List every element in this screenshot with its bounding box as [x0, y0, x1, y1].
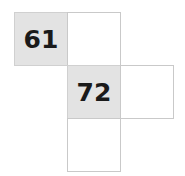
- grid-cell-middle-left[interactable]: 72: [67, 65, 121, 119]
- grid-cell-middle-right[interactable]: [120, 65, 174, 119]
- grid-diagram-canvas: 61 72: [0, 0, 185, 176]
- grid-cell-label: 72: [77, 80, 112, 105]
- grid-cell-bottom[interactable]: [67, 118, 121, 172]
- grid-cell-top-right[interactable]: [67, 12, 121, 66]
- grid-cell-label: 61: [24, 27, 59, 52]
- grid-cell-top-left[interactable]: 61: [14, 12, 68, 66]
